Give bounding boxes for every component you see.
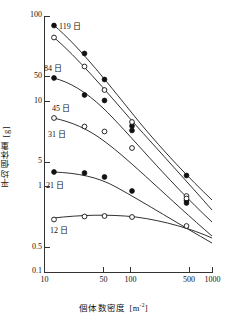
- data-point: [52, 76, 57, 81]
- y-axis-title-unit: [g]: [2, 126, 11, 137]
- x-axis-title-main: 個体数密度: [79, 303, 126, 313]
- y-tick-label-5: 5: [14, 157, 42, 165]
- y-tick-label-1: 1: [14, 182, 42, 190]
- y-tick-label-0-1: 0.1: [14, 267, 42, 275]
- points-21d: [52, 170, 189, 206]
- y-axis-title: 平均個体重[g]: [0, 92, 13, 222]
- data-point: [102, 214, 107, 219]
- series-label-119d: 119 日: [59, 23, 81, 31]
- x-axis-title-unit-close: ]: [145, 303, 148, 313]
- data-point: [52, 170, 57, 175]
- series-label-45d: 45 日: [52, 105, 70, 113]
- x-axis-title: 個体数密度[m-2]: [0, 297, 227, 315]
- x-tick-label-100: 100: [116, 276, 145, 284]
- y-tick-label-0-5: 0.5: [14, 243, 42, 251]
- data-point: [52, 217, 57, 222]
- data-point: [52, 23, 57, 28]
- y-axis-title-text: 平均個体重[g]: [2, 126, 11, 187]
- series-label-21d: 21 日: [46, 182, 64, 190]
- data-point: [184, 173, 189, 178]
- data-point: [184, 196, 189, 201]
- series-label-31d: 31 日: [48, 131, 66, 139]
- data-point: [82, 171, 87, 176]
- data-point: [102, 88, 107, 93]
- chart-figure: 100 50 10 5 1 0.5 0.1 10 50 100 500 1000…: [0, 0, 227, 319]
- x-axis-ticks: [45, 267, 213, 273]
- data-point: [184, 224, 189, 229]
- series-label-84d: 84 日: [44, 65, 62, 73]
- x-tick-label-10: 10: [31, 276, 58, 284]
- points-45d: [52, 76, 189, 203]
- data-point: [130, 215, 135, 220]
- data-point: [130, 128, 135, 133]
- x-axis-title-unit-open: [m: [130, 303, 140, 313]
- y-tick-label-50: 50: [14, 72, 42, 80]
- data-point: [102, 175, 107, 180]
- data-point: [52, 35, 57, 40]
- points-31d: [52, 116, 189, 201]
- data-point: [82, 124, 87, 129]
- data-point: [130, 146, 135, 151]
- data-point: [102, 77, 107, 82]
- data-point: [130, 189, 135, 194]
- y-axis-ticks: [45, 16, 50, 272]
- data-point: [82, 93, 87, 98]
- y-axis-title-main: 平均個体重: [1, 141, 11, 188]
- axis-lines: [45, 16, 213, 273]
- y-tick-label-10: 10: [14, 97, 42, 105]
- data-point: [52, 116, 57, 121]
- data-point: [102, 129, 107, 134]
- data-point: [82, 214, 87, 219]
- x-tick-label-1000: 1000: [198, 276, 227, 284]
- x-axis-title-text: 個体数密度[m-2]: [79, 303, 148, 313]
- data-point: [82, 51, 87, 56]
- data-point: [184, 201, 189, 206]
- data-point: [102, 98, 107, 103]
- series-curves: [54, 25, 213, 243]
- data-point: [130, 120, 135, 125]
- y-tick-label-100: 100: [14, 11, 42, 19]
- series-label-12d: 12 日: [50, 227, 68, 235]
- data-point: [82, 64, 87, 69]
- x-tick-label-50: 50: [90, 276, 117, 284]
